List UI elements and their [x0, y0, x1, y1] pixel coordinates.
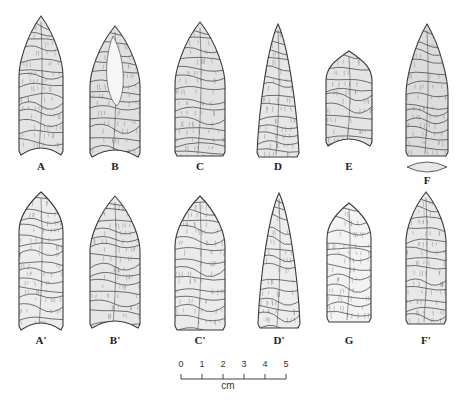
projectile-point-e — [324, 51, 374, 150]
point-label-a2: A' — [36, 334, 47, 346]
projectile-point-f — [404, 24, 450, 156]
point-label-b2: B' — [110, 334, 120, 346]
scale-tick-1: 1 — [199, 359, 204, 369]
scale-bar: 0 1 2 3 4 5 cm — [176, 359, 294, 395]
scale-tick-5: 5 — [283, 359, 288, 369]
scale-ruler — [176, 359, 294, 389]
scale-unit: cm — [221, 380, 234, 391]
projectile-point-a2 — [17, 192, 65, 330]
point-label-f: F — [424, 174, 431, 186]
projectile-point-b — [88, 26, 142, 157]
point-label-d: D — [274, 160, 282, 172]
point-label-c2: C' — [195, 334, 206, 346]
cross-section-f — [407, 162, 447, 172]
projectile-point-c — [173, 22, 227, 160]
point-label-f2: F' — [421, 334, 431, 346]
projectile-point-g — [325, 203, 373, 322]
point-label-e: E — [345, 160, 352, 172]
point-label-b: B — [111, 160, 118, 172]
scale-tick-0: 0 — [178, 359, 183, 369]
point-label-d2: D' — [274, 334, 285, 346]
projectile-point-c2 — [173, 196, 227, 337]
projectile-point-d2 — [256, 193, 302, 334]
scale-tick-2: 2 — [220, 359, 225, 369]
scale-tick-3: 3 — [241, 359, 246, 369]
artifact-plate: ABCDEFA'B'C'D'GF' 0 1 2 3 4 5 cm — [0, 0, 466, 402]
point-label-g: G — [345, 334, 354, 346]
projectile-point-f2 — [404, 192, 448, 324]
point-label-a: A — [37, 160, 45, 172]
projectile-point-b2 — [88, 196, 142, 331]
point-label-c: C — [196, 160, 204, 172]
projectile-point-a — [17, 16, 65, 160]
projectile-point-d — [255, 24, 301, 158]
points-drawing — [0, 0, 466, 402]
scale-tick-4: 4 — [262, 359, 267, 369]
